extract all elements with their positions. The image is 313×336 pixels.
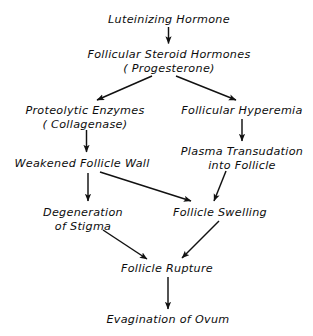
node-label-line2: into Follicle <box>181 159 303 173</box>
node-label-line1: Proteolytic Enzymes <box>25 104 144 117</box>
edge-plasma-to-swelling <box>214 171 226 201</box>
node-label-line1: Evagination of Ovum <box>106 313 229 326</box>
edge-steroid-to-hyperemia <box>176 76 236 100</box>
node-label-line1: Follicular Steroid Hormones <box>87 48 250 61</box>
node-label-line1: Follicle Swelling <box>173 206 267 219</box>
node-label-line1: Luteinizing Hormone <box>108 13 230 26</box>
node-follicular-steroid-hormones: Follicular Steroid Hormones ( Progestero… <box>87 48 250 75</box>
node-label-line1: Follicle Rupture <box>121 262 213 275</box>
node-label-line2: of Stigma <box>43 220 123 234</box>
node-follicle-rupture: Follicle Rupture <box>121 262 213 276</box>
node-evagination-of-ovum: Evagination of Ovum <box>106 313 229 327</box>
edge-steroid-to-proteolytic <box>97 76 152 100</box>
node-proteolytic-enzymes: Proteolytic Enzymes ( Collagenase) <box>25 104 144 131</box>
flowchart-diagram: Luteinizing Hormone Follicular Steroid H… <box>0 0 313 336</box>
node-luteinizing-hormone: Luteinizing Hormone <box>108 13 230 27</box>
node-plasma-transudation: Plasma Transudation into Follicle <box>181 145 303 172</box>
node-label-line2: ( Collagenase) <box>25 118 144 132</box>
node-label-line2: ( Progesterone) <box>87 62 250 76</box>
node-follicular-hyperemia: Follicular Hyperemia <box>181 104 302 118</box>
node-follicle-swelling: Follicle Swelling <box>173 206 267 220</box>
edge-weakened-wall-to-swelling <box>100 172 191 201</box>
node-label-line1: Weakened Follicle Wall <box>14 157 149 170</box>
node-label-line1: Follicular Hyperemia <box>181 104 302 117</box>
node-label-line1: Plasma Transudation <box>181 145 303 158</box>
node-weakened-follicle-wall: Weakened Follicle Wall <box>14 157 149 171</box>
edge-swelling-to-rupture <box>182 221 219 258</box>
edge-degeneration-to-rupture <box>103 230 147 259</box>
node-degeneration-of-stigma: Degeneration of Stigma <box>43 206 123 233</box>
node-label-line1: Degeneration <box>43 206 123 219</box>
